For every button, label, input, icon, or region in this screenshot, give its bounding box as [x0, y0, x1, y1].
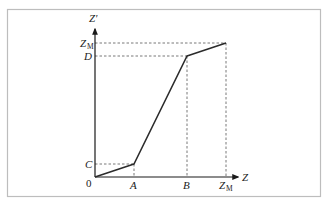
y-axis-label: Z': [89, 12, 98, 24]
svg-text:M: M: [226, 184, 233, 193]
x-tick-a: A: [129, 179, 137, 191]
x-tick-zm: Z M: [219, 179, 233, 193]
svg-text:Z: Z: [80, 37, 87, 49]
svg-text:Z: Z: [219, 179, 226, 191]
x-tick-b: B: [183, 179, 190, 191]
y-tick-c: C: [85, 158, 93, 170]
origin-label: 0: [86, 177, 92, 189]
y-tick-zm: Z M: [80, 37, 94, 51]
piecewise-linear-diagram: Z' Z 0 Z M D C A B Z M: [0, 0, 328, 205]
transfer-curve: [95, 43, 226, 177]
y-tick-d: D: [83, 50, 92, 62]
x-axis-label: Z: [242, 171, 249, 183]
